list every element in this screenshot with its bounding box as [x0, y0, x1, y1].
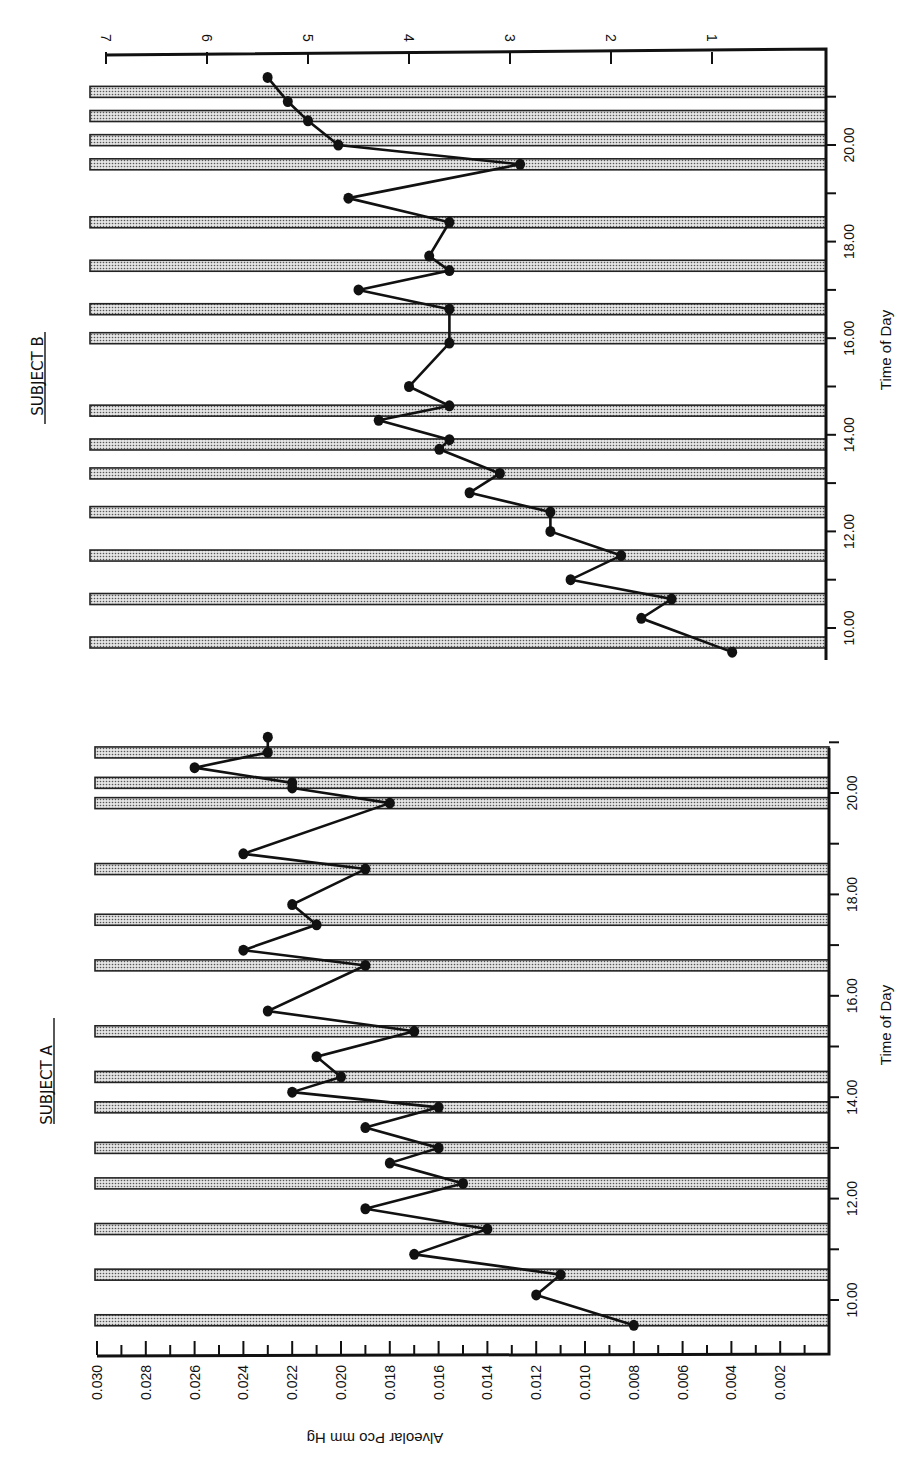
data-point-marker — [263, 72, 273, 83]
data-point-marker — [482, 1224, 492, 1235]
value-axis-tick-label: 0.022 — [284, 1365, 300, 1400]
subject-b-shaded-periods — [90, 86, 826, 648]
data-point-marker — [444, 400, 454, 411]
data-point-marker — [434, 444, 444, 455]
shaded-period-bar — [90, 111, 826, 122]
shaded-period-bar — [95, 914, 829, 925]
data-point-marker — [556, 1269, 566, 1280]
value-axis-tick-label: 4 — [401, 34, 417, 42]
time-axis-tick-label: 16.00 — [841, 320, 857, 355]
data-point-marker — [336, 1071, 346, 1082]
shaded-period-bar — [90, 507, 826, 518]
data-point-marker — [263, 732, 273, 743]
time-axis-tick-label: 14.00 — [841, 417, 857, 452]
subject-a-value-axis-label: Alveolar Pco mm Hg — [307, 1430, 444, 1447]
data-point-marker — [283, 96, 293, 107]
value-axis-tick-label: 0.014 — [479, 1365, 495, 1400]
time-axis-tick-label: 12.00 — [841, 514, 857, 549]
time-axis-tick-label: 18.00 — [844, 877, 860, 912]
value-axis-tick-label: 0.024 — [235, 1365, 251, 1400]
shaded-period-bar — [95, 1142, 829, 1153]
data-point-marker — [263, 1006, 273, 1017]
time-axis-tick-label: 12.00 — [844, 1181, 860, 1216]
data-point-marker — [458, 1178, 468, 1189]
value-axis-tick-label: 0.008 — [626, 1365, 642, 1400]
shaded-period-bar — [90, 86, 826, 97]
data-point-marker — [444, 338, 454, 349]
data-point-marker — [465, 487, 475, 498]
data-point-marker — [495, 468, 505, 479]
shaded-period-bar — [95, 747, 829, 758]
data-point-marker — [385, 1158, 395, 1169]
shaded-period-bar — [90, 135, 826, 146]
value-axis-tick-label: 0.030 — [89, 1365, 105, 1400]
time-axis-tick-label: 10.00 — [841, 610, 857, 645]
value-axis-tick-label: 0.016 — [431, 1365, 447, 1400]
data-point-marker — [312, 1051, 322, 1062]
subject-a-time-axis-label: Time of Day — [877, 984, 894, 1065]
shaded-period-bar — [90, 468, 826, 479]
data-point-marker — [374, 415, 384, 426]
shaded-period-bar — [95, 1269, 829, 1280]
shaded-period-bar — [95, 777, 829, 788]
data-point-marker — [190, 762, 200, 773]
value-axis-tick-label: 5 — [300, 34, 316, 42]
value-axis-tick-label: 6 — [199, 34, 215, 42]
data-point-marker — [444, 434, 454, 445]
shaded-period-bar — [95, 1026, 829, 1037]
data-point-marker — [444, 217, 454, 228]
shaded-period-bar — [90, 405, 826, 416]
data-point-marker — [287, 899, 297, 910]
shaded-period-bar — [95, 960, 829, 971]
data-point-marker — [287, 777, 297, 788]
value-axis-tick-label: 0.012 — [528, 1365, 544, 1400]
data-point-marker — [287, 1087, 297, 1098]
data-point-marker — [263, 747, 273, 758]
subject-a-panel: 0.0300.0280.0260.0240.0220.0200.0180.016… — [38, 732, 894, 1447]
subject-a-time-axis-ticks: 10.0012.0014.0016.0018.0020.00 — [829, 742, 860, 1317]
shaded-period-bar — [90, 260, 826, 271]
value-axis-tick-label: 3 — [502, 34, 518, 42]
value-axis-tick-label: 0.010 — [577, 1365, 593, 1400]
time-axis-tick-label: 14.00 — [844, 1079, 860, 1114]
value-axis-tick-label: 0.018 — [382, 1365, 398, 1400]
data-point-marker — [303, 115, 313, 126]
data-point-marker — [360, 1122, 370, 1133]
shaded-period-bar — [95, 864, 829, 875]
data-point-marker — [424, 251, 434, 262]
data-point-marker — [434, 1142, 444, 1153]
shaded-period-bar — [95, 798, 829, 809]
data-point-marker — [444, 265, 454, 276]
data-point-marker — [312, 919, 322, 930]
value-axis-tick-label: 2 — [603, 34, 619, 42]
time-axis-tick-label: 20.00 — [844, 775, 860, 810]
data-point-marker — [616, 550, 626, 561]
subject-b-time-axis-label: Time of Day — [877, 309, 894, 390]
shaded-period-bar — [90, 159, 826, 170]
shaded-period-bar — [95, 1315, 829, 1326]
data-point-marker — [360, 1203, 370, 1214]
data-point-marker — [636, 613, 646, 624]
data-point-marker — [566, 574, 576, 585]
data-point-marker — [515, 159, 525, 170]
shaded-period-bar — [90, 550, 826, 561]
time-axis-tick-label: 10.00 — [844, 1282, 860, 1317]
data-point-marker — [238, 848, 248, 859]
data-point-marker — [727, 647, 737, 658]
data-point-marker — [629, 1320, 639, 1331]
value-axis-tick-label: 0.002 — [772, 1365, 788, 1400]
data-point-marker — [444, 304, 454, 315]
shaded-period-bar — [90, 439, 826, 450]
value-axis-tick-label: 0.028 — [138, 1365, 154, 1400]
subject-a-value-axis-ticks: 0.0300.0280.0260.0240.0220.0200.0180.016… — [89, 1341, 805, 1400]
value-axis-tick-label: 7 — [98, 34, 114, 42]
value-axis-tick-label: 1 — [704, 34, 720, 42]
data-point-marker — [545, 526, 555, 537]
data-point-marker — [333, 140, 343, 151]
data-point-marker — [531, 1289, 541, 1300]
shaded-period-bar — [90, 333, 826, 344]
shaded-period-bar — [95, 1071, 829, 1082]
shaded-period-bar — [90, 594, 826, 605]
value-axis-tick-label: 0.006 — [675, 1365, 691, 1400]
subject-b-panel: 7654321 10.0012.0014.0016.0018.0020.00 S… — [29, 34, 894, 660]
